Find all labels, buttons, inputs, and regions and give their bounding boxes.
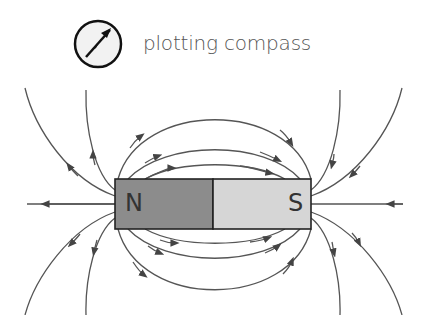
compass-icon <box>75 21 121 67</box>
south-label: S <box>288 189 303 217</box>
legend-label: plotting compass <box>143 31 311 55</box>
north-label: N <box>125 189 143 217</box>
bar-magnet <box>115 179 311 229</box>
